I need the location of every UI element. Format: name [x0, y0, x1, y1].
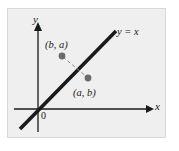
line-equation-label: y = x [117, 27, 139, 38]
y-axis-label: y [33, 14, 38, 25]
point-label-b-a: (b, a) [45, 40, 68, 51]
reference-line-y-equals-x [20, 31, 116, 129]
origin-label: 0 [41, 111, 46, 121]
plot-graphics [0, 0, 179, 151]
point-b-a [59, 53, 66, 60]
x-axis-label: x [155, 101, 160, 112]
point-label-a-b: (a, b) [73, 88, 96, 99]
point-a-b [85, 75, 92, 82]
figure-root: y x 0 (b, a) (a, b) y = x [0, 0, 179, 151]
